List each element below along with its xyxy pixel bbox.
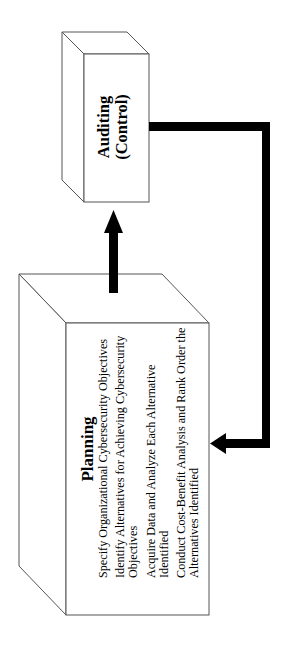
arrow-head-up-icon bbox=[104, 210, 123, 233]
auditing-box-side-face bbox=[62, 32, 84, 202]
planning-box-content: Planning Specify Organizational Cybersec… bbox=[78, 326, 205, 578]
planning-step-4: Conduct Cost-Benefit Analysis and Rank O… bbox=[175, 326, 201, 578]
planning-step-2: Identify Alternatives for Achieving Cybe… bbox=[114, 326, 140, 578]
planning-box-side-face bbox=[19, 274, 66, 615]
auditing-title: Auditing bbox=[95, 88, 113, 166]
planning-step-3: Acquire Data and Analyze Each Alternativ… bbox=[145, 326, 171, 578]
planning-title: Planning bbox=[78, 326, 97, 578]
planning-step-1: Specify Organizational Cybersecurity Obj… bbox=[97, 326, 110, 578]
arrow-head-left-icon bbox=[210, 433, 226, 454]
auditing-subtitle: (Control) bbox=[113, 88, 131, 166]
auditing-box-label: Auditing (Control) bbox=[95, 88, 131, 166]
